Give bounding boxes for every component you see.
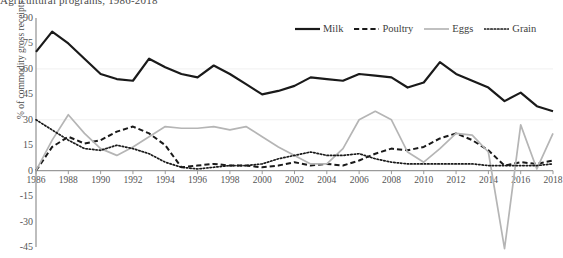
legend-swatch-poultry-icon bbox=[354, 25, 379, 33]
legend-item-eggs[interactable]: Eggs bbox=[424, 24, 473, 35]
legend-item-milk[interactable]: Milk bbox=[295, 24, 343, 35]
legend-swatch-eggs-icon bbox=[424, 25, 449, 33]
legend-label: Grain bbox=[512, 24, 536, 35]
series-line-milk bbox=[36, 32, 553, 112]
legend-item-poultry[interactable]: Poultry bbox=[354, 24, 413, 35]
series-line-eggs bbox=[36, 111, 553, 248]
legend-label: Poultry bbox=[382, 24, 413, 35]
legend-swatch-grain-icon bbox=[484, 25, 509, 33]
legend-swatch-milk-icon bbox=[295, 25, 320, 33]
legend-item-grain[interactable]: Grain bbox=[484, 24, 536, 35]
legend-label: Eggs bbox=[452, 24, 473, 35]
chart-legend: MilkPoultryEggsGrain bbox=[295, 24, 536, 35]
legend-label: Milk bbox=[323, 24, 343, 35]
